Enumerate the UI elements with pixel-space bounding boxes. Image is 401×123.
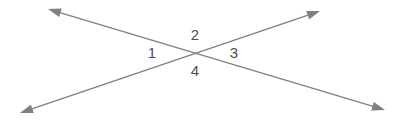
diagram-canvas: 1 2 3 4 [0, 0, 401, 123]
angle-label-1: 1 [148, 44, 156, 61]
angle-label-3: 3 [230, 44, 238, 61]
angle-diagram: 1 2 3 4 [0, 0, 401, 123]
angle-label-2: 2 [191, 26, 199, 43]
angle-label-4: 4 [191, 62, 199, 79]
diagram-background [0, 0, 401, 123]
